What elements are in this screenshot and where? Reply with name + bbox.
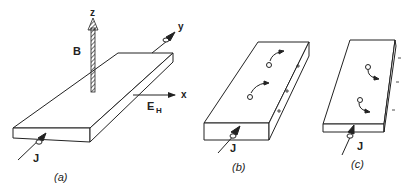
caption-a: (a) <box>54 171 68 183</box>
current-label-a: J <box>33 152 39 164</box>
hall-effect-diagram: z y x B E H J (a) J (b) <box>0 0 409 184</box>
panel-b <box>204 42 309 153</box>
b-field-label: B <box>73 45 81 57</box>
caption-c: (c) <box>351 158 364 170</box>
current-label-c: J <box>357 140 363 152</box>
panel-a <box>13 18 175 160</box>
caption-b: (b) <box>232 161 246 173</box>
diagram-canvas: z y x B E H J (a) J (b) <box>0 0 409 184</box>
current-arrow-tail-c <box>347 134 353 138</box>
z-axis-label: z <box>90 7 95 18</box>
hall-field-label: E <box>147 100 154 112</box>
current-label-b: J <box>230 142 236 154</box>
current-arrow-tail-a <box>36 140 42 144</box>
y-axis-label: y <box>178 21 184 32</box>
b-field-arrow-shaft <box>91 28 95 92</box>
x-axis-label: x <box>181 89 187 100</box>
hall-field-subscript: H <box>156 106 162 115</box>
slab-front-face <box>13 128 90 142</box>
b-field-arrow-head <box>88 18 98 30</box>
slab-c-top-face <box>323 40 395 124</box>
panel-c <box>323 40 401 155</box>
